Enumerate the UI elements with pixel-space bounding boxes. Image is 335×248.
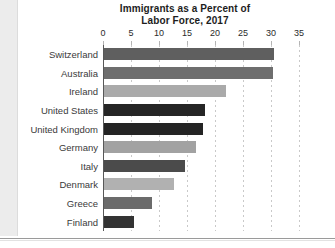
- x-tick-label: 25: [238, 28, 248, 38]
- x-tick-label: 5: [128, 28, 133, 38]
- x-tick-label: 30: [266, 28, 276, 38]
- x-tick-label: 35: [294, 28, 304, 38]
- plot-area: SwitzerlandAustraliaIrelandUnited States…: [103, 45, 299, 231]
- bar-category-label: Denmark: [59, 179, 98, 190]
- bar-row: United States: [103, 101, 299, 120]
- bar: [104, 197, 152, 209]
- bar: [104, 141, 196, 153]
- bar-row: Ireland: [103, 82, 299, 101]
- bar-row: United Kingdom: [103, 119, 299, 138]
- bar-row: Australia: [103, 64, 299, 83]
- bar-category-label: Australia: [61, 67, 98, 78]
- bar-category-label: United Kingdom: [30, 123, 98, 134]
- bar-category-label: Finland: [67, 216, 98, 227]
- page-margin-edge: [17, 0, 18, 236]
- x-tick-label: 20: [210, 28, 220, 38]
- bar-row: Germany: [103, 138, 299, 157]
- x-tick-label: 0: [100, 28, 105, 38]
- chart-page: Immigrants as a Percent of Labor Force, …: [0, 0, 335, 248]
- bar: [104, 48, 274, 60]
- bar-category-label: Switzerland: [49, 49, 98, 60]
- x-tick-label: 15: [182, 28, 192, 38]
- bar-category-label: Germany: [59, 142, 98, 153]
- bar: [104, 160, 185, 172]
- bar-category-label: Ireland: [69, 86, 98, 97]
- bar-category-label: United States: [41, 105, 98, 116]
- chart-title-line-1: Immigrants as a Percent of: [60, 3, 310, 15]
- bar-row: Italy: [103, 157, 299, 176]
- page-bottom-rule-shadow: [0, 240, 335, 241]
- bar-category-label: Greece: [67, 198, 98, 209]
- chart-title: Immigrants as a Percent of Labor Force, …: [60, 3, 310, 26]
- bar: [104, 178, 174, 190]
- bar: [104, 85, 226, 97]
- bar-row: Switzerland: [103, 45, 299, 64]
- bar: [104, 67, 273, 79]
- bar: [104, 104, 205, 116]
- bar-category-label: Italy: [81, 160, 98, 171]
- x-tick-label: 10: [154, 28, 164, 38]
- page-margin-strip: [0, 0, 17, 236]
- chart-title-line-2: Labor Force, 2017: [60, 15, 310, 27]
- bar: [104, 123, 203, 135]
- bar-row: Finland: [103, 212, 299, 231]
- bar-row: Denmark: [103, 175, 299, 194]
- gridline-35: [299, 45, 300, 231]
- bar-row: Greece: [103, 194, 299, 213]
- bar: [104, 216, 134, 228]
- page-bottom-rule: [0, 238, 335, 239]
